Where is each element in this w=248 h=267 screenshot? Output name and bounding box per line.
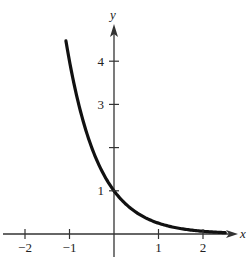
y-tick-label: 3 [98,97,105,112]
x-tick-label: 1 [155,240,162,255]
y-axis-ticks: 134 [98,54,120,199]
x-axis-ticks: −2−112 [18,229,206,255]
y-axis-label: y [108,7,116,22]
x-tick-label: −2 [18,240,32,255]
y-tick-label: 1 [98,183,105,198]
x-tick-label: 2 [200,240,207,255]
x-axis-label: x [239,226,246,241]
y-tick-label: 4 [98,54,105,69]
curve-line [66,41,225,233]
x-tick-label: −1 [63,240,77,255]
plot-area: x y −2−112 134 [0,0,248,267]
chart: x y −2−112 134 [0,0,248,267]
axes [3,24,238,257]
